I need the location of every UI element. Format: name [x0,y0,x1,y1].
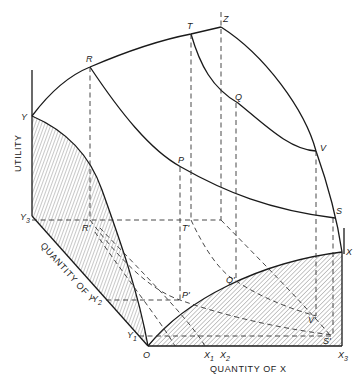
ridge-curve-zx [221,27,342,252]
label-v: V [320,143,327,153]
label-q: Q [235,92,242,102]
quantity-x-axis-label: QUANTITY OF X [210,364,287,374]
svg-text:3: 3 [26,217,30,224]
label-y3: Y 3 [20,212,30,224]
label-p: P [178,155,184,165]
indifference-curve-rs [90,67,335,218]
label-r: R [86,54,93,64]
label-t: T [187,21,194,31]
label-x: X [345,247,353,257]
indifference-curve-tv [191,34,316,151]
label-x1: X 1 [203,350,214,362]
label-z: Z [222,14,229,24]
svg-text:1: 1 [210,355,214,362]
label-s-prime: S' [323,336,331,346]
label-p-prime: P' [182,290,190,300]
label-x3: X 3 [337,350,348,362]
label-v-prime: V' [308,315,316,325]
svg-text:1: 1 [133,335,137,342]
svg-text:3: 3 [344,355,348,362]
label-q-prime: Q' [226,275,235,285]
label-t-prime: T' [182,223,189,233]
svg-text:2: 2 [225,355,230,362]
utility-surface-diagram: Y R T Z Q P V S X R' T' P' Q' V' S' O Y … [0,0,362,386]
label-o: O [143,350,150,360]
label-x2: X 2 [219,350,230,362]
svg-text:2: 2 [97,299,102,306]
label-s: S [336,206,342,216]
label-r-prime: R' [82,223,90,233]
utility-axis-label: UTILITY [13,134,23,172]
label-y: Y [21,112,28,122]
